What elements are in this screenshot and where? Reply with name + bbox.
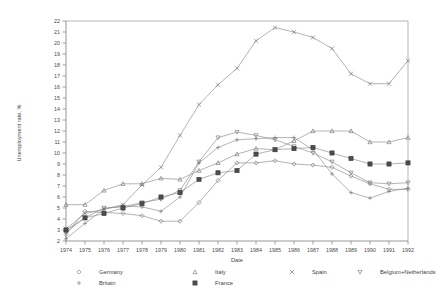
data-point-marker <box>121 206 125 210</box>
y-tick-label: 9 <box>57 161 60 167</box>
y-tick-label: 11 <box>54 139 60 145</box>
y-tick-label: 8 <box>57 172 60 178</box>
data-point-marker <box>273 148 277 152</box>
y-axis-title: Unemployment rate, % <box>16 105 22 162</box>
data-point-marker <box>368 162 372 166</box>
x-tick-label: 1978 <box>136 247 148 253</box>
x-tick-label: 1980 <box>174 247 186 253</box>
x-tick-label: 1992 <box>402 247 414 253</box>
y-tick-label: 20 <box>54 40 60 46</box>
data-point-marker <box>330 151 334 155</box>
x-tick-label: 1981 <box>193 247 205 253</box>
x-tick-label: 1991 <box>383 247 395 253</box>
legend-label: Italy <box>215 269 226 275</box>
x-axis-title: Date <box>231 257 243 263</box>
data-point-marker <box>406 161 410 165</box>
data-point-marker <box>292 147 296 151</box>
x-tick-label: 1983 <box>231 247 243 253</box>
y-tick-label: 14 <box>54 106 60 112</box>
data-point-marker <box>178 191 182 195</box>
data-point-marker <box>311 145 315 149</box>
data-point-marker <box>197 177 201 181</box>
legend-label: Spain <box>312 269 327 275</box>
y-tick-label: 18 <box>54 62 60 68</box>
y-tick-label: 7 <box>57 183 60 189</box>
y-tick-label: 10 <box>54 150 60 156</box>
data-point-marker <box>64 228 68 232</box>
x-tick-label: 1990 <box>364 247 376 253</box>
y-tick-label: 4 <box>57 216 60 222</box>
y-tick-label: 3 <box>57 227 60 233</box>
y-tick-label: 13 <box>54 117 60 123</box>
x-tick-label: 1986 <box>288 247 300 253</box>
x-tick-label: 1975 <box>79 247 91 253</box>
y-tick-label: 12 <box>54 128 60 134</box>
y-tick-label: 5 <box>57 205 60 211</box>
data-point-marker <box>387 162 391 166</box>
data-point-marker <box>349 156 353 160</box>
x-tick-label: 1988 <box>326 247 338 253</box>
legend-label: France <box>215 280 233 286</box>
x-tick-label: 1974 <box>60 247 72 253</box>
x-tick-label: 1979 <box>155 247 167 253</box>
y-tick-label: 15 <box>54 95 60 101</box>
data-point-marker <box>235 169 239 173</box>
y-tick-label: 22 <box>54 18 60 24</box>
unemployment-rate-line-chart: 2345678910111213141516171819202122 19741… <box>0 0 440 293</box>
data-point-marker <box>102 211 106 215</box>
data-point-marker <box>140 202 144 206</box>
y-tick-label: 21 <box>54 29 60 35</box>
data-point-marker <box>216 171 220 175</box>
y-tick-label: 6 <box>57 194 60 200</box>
x-tick-label: 1984 <box>250 247 262 253</box>
y-tick-label: 16 <box>54 84 60 90</box>
legend-label: Britain <box>99 280 115 286</box>
y-tick-label: 19 <box>54 51 60 57</box>
chart-canvas: 2345678910111213141516171819202122 19741… <box>0 0 440 293</box>
x-tick-label: 1989 <box>345 247 357 253</box>
legend-label: Belgium+Netherlands <box>380 269 436 275</box>
legend-marker-square-filled-icon <box>193 281 197 285</box>
x-tick-label: 1976 <box>98 247 110 253</box>
x-tick-label: 1977 <box>117 247 129 253</box>
legend-label: Germany <box>99 269 123 275</box>
y-tick-label: 17 <box>54 73 60 79</box>
data-point-marker <box>254 152 258 156</box>
x-tick-label: 1985 <box>269 247 281 253</box>
x-tick-label: 1987 <box>307 247 319 253</box>
x-tick-label: 1982 <box>212 247 224 253</box>
data-point-marker <box>83 216 87 220</box>
y-tick-label: 2 <box>57 238 60 244</box>
data-point-marker <box>159 195 163 199</box>
